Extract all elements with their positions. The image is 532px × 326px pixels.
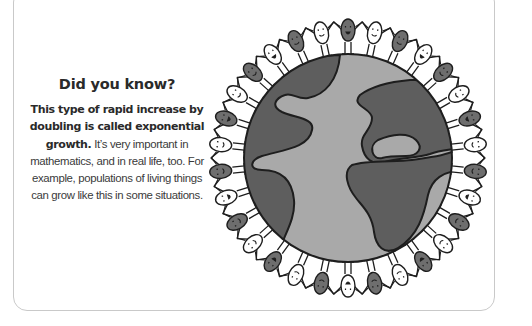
person-figure-icon [328,262,368,297]
panel-title: Did you know? [22,76,212,92]
person-figure-icon [328,19,368,54]
panel-body: This type of rapid increase by doubling … [22,101,212,205]
globe-icon [236,54,460,262]
person-figure-icon [208,124,247,167]
person-figure-icon [449,149,488,192]
did-you-know-panel: Did you know? This type of rapid increas… [22,76,212,205]
globe-illustration [200,8,500,308]
